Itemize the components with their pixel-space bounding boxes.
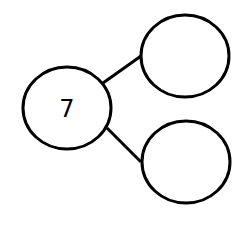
connector-whole-to-top-part (103, 56, 141, 83)
number-bond-diagram: 7 (0, 0, 246, 239)
connector-whole-to-bottom-part (107, 128, 141, 162)
whole-value: 7 (59, 95, 74, 123)
part-top-circle[interactable] (141, 15, 229, 97)
part-bottom-circle[interactable] (142, 121, 230, 203)
